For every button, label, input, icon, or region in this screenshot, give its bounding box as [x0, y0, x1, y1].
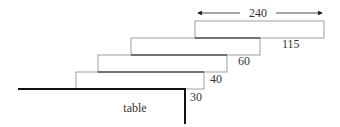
width-dimension: 240 — [198, 6, 322, 20]
block-third — [98, 55, 227, 72]
overhang-label-40: 40 — [210, 72, 222, 86]
table-label: table — [123, 101, 146, 115]
stacking-diagram: 240 115 60 40 30 table — [0, 0, 340, 127]
overhang-label-60: 60 — [238, 54, 250, 68]
block-second — [131, 38, 260, 55]
block-top — [195, 21, 324, 38]
overhang-label-115: 115 — [282, 37, 300, 51]
overhang-label-30: 30 — [190, 90, 202, 104]
block-bottom — [76, 72, 204, 89]
width-label: 240 — [249, 6, 267, 20]
table: table — [18, 88, 185, 124]
